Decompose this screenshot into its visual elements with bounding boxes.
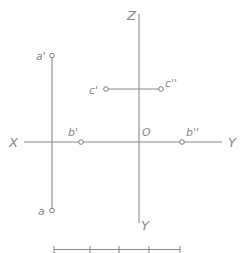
label-b-double-prime: b'' [186,126,199,139]
scale-bar [54,246,180,253]
projection-diagram: Z Y X Y O a' a c' c'' b' b'' [0,0,244,253]
axis-label-y-bottom: Y [141,218,150,233]
point-c-prime [104,87,109,92]
axis-label-z: Z [126,8,137,23]
axis-label-x: X [8,135,19,150]
point-a [50,208,55,213]
label-c-prime: c' [89,84,98,97]
point-b-double-prime [180,140,185,145]
point-a-prime [50,53,55,58]
point-c-double-prime [159,87,164,92]
label-c-double-prime: c'' [165,77,177,90]
axis-label-y-right: Y [228,135,237,150]
label-a: a [38,205,45,218]
point-b-prime [79,140,84,145]
origin-label: O [142,126,151,139]
label-b-prime: b' [68,126,78,139]
label-a-prime: a' [36,50,46,63]
